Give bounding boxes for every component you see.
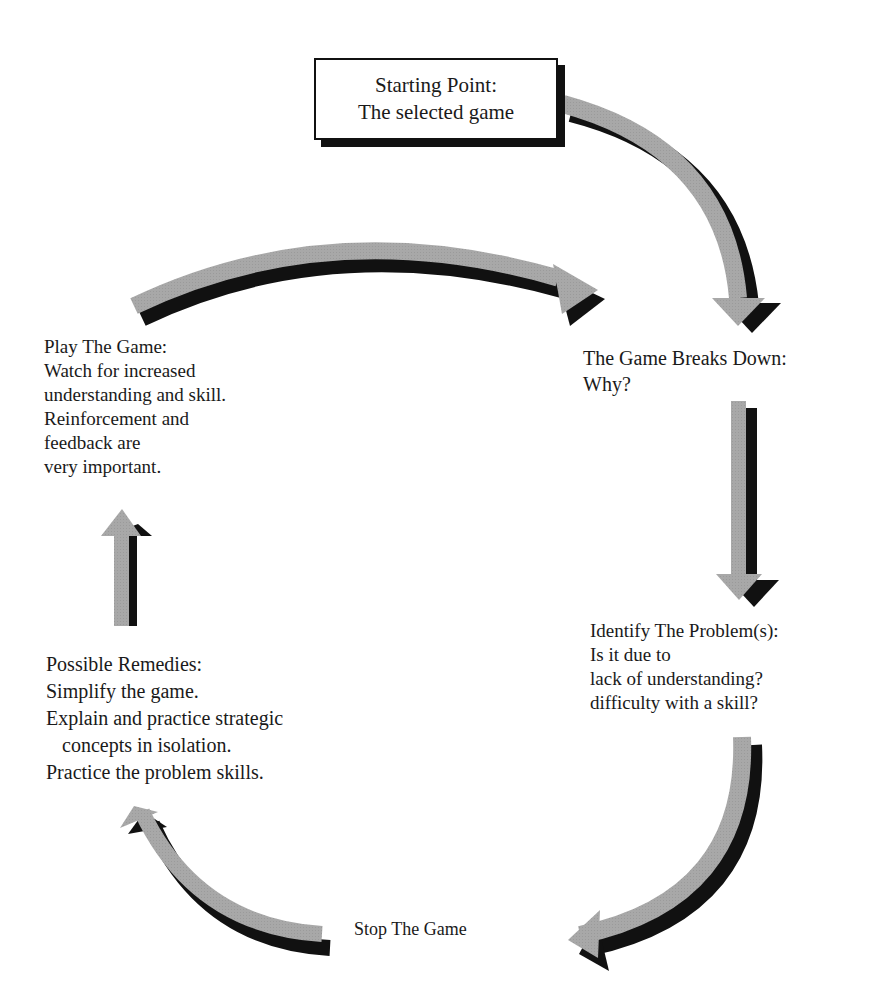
stop-label: Stop The Game [354, 917, 467, 941]
start-subtitle: The selected game [358, 99, 514, 126]
identify-line: Is it due to [590, 643, 779, 667]
game-cycle-diagram: Starting Point: The selected game Play T… [0, 0, 888, 1006]
node-play-the-game: Play The Game: Watch for increased under… [44, 335, 226, 479]
arrow-identify-to-stop-icon [568, 737, 753, 971]
arrow-play-to-breaks-icon [134, 251, 605, 326]
identify-title: Identify The Problem(s): [590, 619, 779, 643]
starting-point-box: Starting Point: The selected game [314, 58, 558, 140]
play-line: very important. [44, 455, 226, 479]
remedies-item: Explain and practice strategic [46, 705, 283, 732]
play-title: Play The Game: [44, 335, 226, 359]
play-line: Watch for increased [44, 359, 226, 383]
arrows-layer [0, 0, 888, 1006]
arrow-stop-to-remedies-icon [120, 806, 330, 948]
breaks-question: Why? [583, 371, 787, 397]
breaks-title: The Game Breaks Down: [583, 345, 787, 371]
arrow-breaks-to-identify-icon [716, 401, 779, 607]
remedies-item: Practice the problem skills. [46, 759, 283, 786]
identify-line: lack of understanding? [590, 667, 779, 691]
arrow-remedies-to-play-icon [101, 509, 152, 626]
node-game-breaks-down: The Game Breaks Down: Why? [583, 345, 787, 397]
node-stop-the-game: Stop The Game [354, 917, 467, 941]
remedies-item: Simplify the game. [46, 678, 283, 705]
node-identify-problems: Identify The Problem(s): Is it due to la… [590, 619, 779, 715]
play-line: Reinforcement and [44, 407, 226, 431]
identify-line: difficulty with a skill? [590, 691, 779, 715]
play-line: feedback are [44, 431, 226, 455]
node-possible-remedies: Possible Remedies: Simplify the game. Ex… [46, 651, 283, 786]
remedies-item-continued: concepts in isolation. [46, 732, 283, 759]
remedies-title: Possible Remedies: [46, 651, 283, 678]
start-title: Starting Point: [375, 72, 497, 99]
play-line: understanding and skill. [44, 383, 226, 407]
